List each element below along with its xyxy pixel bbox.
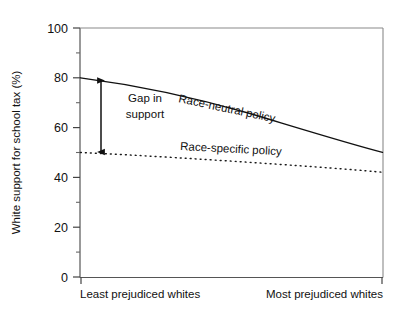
x-axis-label-left: Least prejudiced whites xyxy=(80,288,200,300)
line-chart-svg: 100 80 60 40 20 0 White support for scho… xyxy=(0,0,406,324)
x-axis-label-right: Most prejudiced whites xyxy=(266,288,383,300)
y-tick-label-20: 20 xyxy=(54,221,68,235)
y-tick-label-80: 80 xyxy=(54,71,68,85)
y-tick-label-60: 60 xyxy=(54,121,68,135)
y-tick-label-0: 0 xyxy=(61,271,68,285)
y-axis-title: White support for school tax (%) xyxy=(10,71,22,235)
gap-label-line2: support xyxy=(126,108,165,120)
y-tick-label-40: 40 xyxy=(54,171,68,185)
gap-label-line1: Gap in xyxy=(128,92,162,104)
y-tick-label-100: 100 xyxy=(47,22,68,36)
chart-figure: 100 80 60 40 20 0 White support for scho… xyxy=(0,0,406,324)
